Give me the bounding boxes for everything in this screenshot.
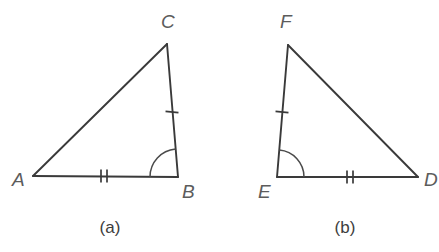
vertex-label-E: E	[258, 181, 271, 202]
triangle-edge-AB	[33, 176, 178, 177]
figure-canvas: ABC(a)EDF(b)	[0, 0, 439, 252]
angle-arc-B	[150, 149, 176, 177]
triangle-edge-DF	[288, 45, 418, 177]
tick-single-BC-stroke	[166, 111, 179, 112]
vertex-label-B: B	[182, 181, 195, 202]
tick-single-EF-stroke	[276, 111, 289, 112]
tick-single-BC	[166, 111, 179, 112]
triangle-edge-CA	[33, 44, 167, 176]
panel-caption-0: (a)	[100, 218, 121, 237]
vertex-label-D: D	[424, 169, 438, 190]
panel-caption-1: (b)	[335, 218, 356, 237]
angle-arc-E	[279, 150, 304, 177]
vertex-label-A: A	[11, 169, 25, 190]
triangle-panel-a: ABC(a)	[11, 11, 195, 237]
vertex-label-C: C	[161, 11, 175, 32]
vertex-label-F: F	[280, 11, 293, 32]
triangle-edge-BC	[167, 44, 178, 177]
triangle-panel-b: EDF(b)	[258, 11, 438, 237]
geometry-figure: ABC(a)EDF(b)	[0, 0, 439, 252]
tick-single-EF	[276, 111, 289, 112]
